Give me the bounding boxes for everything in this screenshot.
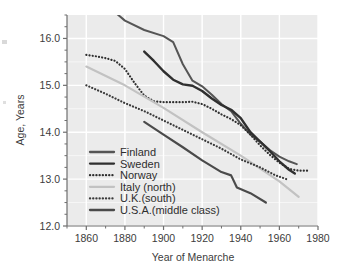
legend-label: Finland [120, 146, 156, 158]
y-tick-label: 14.0 [40, 126, 61, 138]
x-tick-label: 1940 [229, 232, 253, 244]
legend-label: Italy (north) [120, 181, 176, 193]
plot-background [67, 15, 318, 226]
x-tick-label: 1880 [113, 232, 137, 244]
y-tick-label: 16.0 [40, 32, 61, 44]
legend-label: U.K.(south) [120, 192, 176, 204]
legend-label: U.S.A.(middle class) [120, 204, 220, 216]
x-tick-label: 1860 [75, 232, 99, 244]
x-tick-label: 1900 [152, 232, 176, 244]
chart-plot-area: 12.013.014.015.016.018601880190019201940… [0, 0, 351, 268]
y-axis-title: Age, Years [14, 95, 26, 146]
y-tick-label: 13.0 [40, 173, 61, 185]
legend-label: Sweden [120, 158, 160, 170]
y-tick-label: 15.0 [40, 79, 61, 91]
menarche-age-line-chart: 12.013.014.015.016.018601880190019201940… [0, 0, 351, 268]
figure-container: 12.013.014.015.016.018601880190019201940… [0, 0, 351, 268]
x-tick-label: 1980 [306, 232, 330, 244]
x-tick-label: 1920 [190, 232, 214, 244]
x-tick-label: 1960 [268, 232, 292, 244]
legend-label: Norway [120, 169, 158, 181]
x-axis-title: Year of Menarche [152, 251, 235, 263]
y-tick-label: 12.0 [40, 220, 61, 232]
